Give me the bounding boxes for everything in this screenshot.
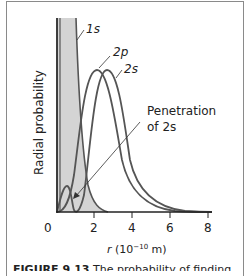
x-tick-label-4: 4 (128, 221, 136, 235)
x-tick-label-2: 2 (90, 221, 98, 235)
x-axis-label: r (10−10 m) (107, 243, 167, 256)
leader-2s (116, 70, 122, 78)
label-2s: 2s (124, 62, 138, 76)
x-axis-unit-b: m) (148, 243, 167, 256)
x-origin-label: 0 (44, 221, 52, 235)
label-penetration-line1: Penetration (147, 104, 216, 118)
x-axis-unit-a: (10 (112, 243, 134, 256)
label-2p: 2p (113, 45, 129, 59)
x-axis-unit-exp: −10 (133, 243, 148, 251)
figure-number: FIGURE 9.13 (13, 263, 90, 271)
x-tick-label-8: 8 (204, 221, 212, 235)
figure-caption: FIGURE 9.13 The probability of finding..… (13, 262, 241, 271)
leader-2p (99, 56, 110, 68)
label-1s: 1s (86, 22, 100, 36)
label-penetration-line2: of 2s (147, 120, 176, 134)
x-tick-label-6: 6 (166, 221, 174, 235)
leader-1s (77, 30, 84, 40)
y-axis-label: Radial probability (32, 70, 46, 175)
caption-text: The probability of finding... (90, 263, 241, 271)
